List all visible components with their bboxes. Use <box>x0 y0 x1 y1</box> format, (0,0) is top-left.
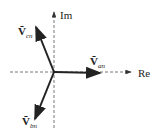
label-vbn: Ṽbn <box>22 116 37 130</box>
phasor-vbn <box>35 72 54 119</box>
phasor-vcn <box>36 27 54 72</box>
imag-axis-label: Im <box>60 10 72 21</box>
label-van: Ṽan <box>90 56 105 70</box>
real-axis-label: Re <box>138 68 150 79</box>
phasor-van <box>54 72 100 73</box>
phasor-diagram: Im Re Ṽan Ṽcn Ṽbn <box>0 0 156 139</box>
label-vcn: Ṽcn <box>18 26 33 40</box>
